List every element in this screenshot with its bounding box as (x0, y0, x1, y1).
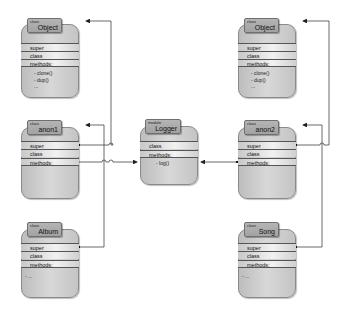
method-item: ... (251, 83, 255, 90)
field-super: super (21, 43, 79, 51)
class-name: anon2 (256, 125, 275, 134)
method-item: - ... (25, 273, 32, 280)
class-name: Object (38, 23, 58, 32)
field-methods: methods: (140, 150, 198, 158)
method-item: - ... (242, 273, 249, 280)
field-super: super (238, 141, 296, 149)
method-item: ... (34, 83, 38, 90)
module-tab: module Logger (145, 119, 181, 134)
field-super: super (238, 43, 296, 51)
field-methods: methods: (21, 260, 79, 268)
class-box-album[interactable]: class Album super class methods: - ... (21, 222, 79, 298)
class-name: anon1 (39, 125, 58, 134)
method-item: - clone() (34, 70, 52, 77)
class-box-object-right[interactable]: class Object super class methods: - clon… (238, 18, 296, 98)
class-tab: class Song (244, 222, 279, 237)
class-name: Object (255, 23, 275, 32)
field-methods: methods: (238, 158, 296, 166)
class-name: Album (38, 227, 58, 236)
module-box-logger[interactable]: module Logger class methods: - log() (140, 119, 198, 185)
class-tab: class anon1 (27, 120, 62, 135)
class-tab: class Object (244, 18, 279, 33)
field-class: class (21, 251, 79, 259)
class-box-anon1[interactable]: class anon1 super class methods: (21, 120, 79, 199)
class-tab: class Album (27, 222, 62, 237)
field-class: class (238, 251, 296, 259)
field-super: super (238, 243, 296, 251)
class-name: Song (259, 227, 275, 236)
field-super: super (21, 141, 79, 149)
field-super: super (21, 243, 79, 251)
diagram-canvas: class Object super class methods: - clon… (0, 0, 349, 318)
class-box-anon2[interactable]: class anon2 super class methods: (238, 120, 296, 199)
class-tab: class Object (27, 18, 62, 33)
field-methods: methods: (238, 59, 296, 67)
method-item: - clone() (251, 70, 269, 77)
field-class: class (238, 149, 296, 157)
class-box-song[interactable]: class Song super class methods: - ... (238, 222, 296, 298)
module-name: Logger (155, 124, 177, 133)
field-class: class (21, 51, 79, 59)
class-tab: class anon2 (244, 120, 279, 135)
field-methods: methods: (238, 260, 296, 268)
method-item: - log() (156, 160, 169, 167)
field-methods: methods: (21, 158, 79, 166)
class-box-object-left[interactable]: class Object super class methods: - clon… (21, 18, 79, 98)
field-class: class (238, 51, 296, 59)
field-class: class (21, 149, 79, 157)
field-methods: methods: (21, 59, 79, 67)
field-class: class (140, 141, 198, 149)
